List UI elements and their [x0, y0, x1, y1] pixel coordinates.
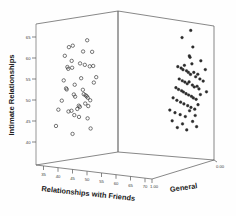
series-open-circles	[54, 39, 98, 136]
plot-canvas: 65 60 55 50 45 40 Intimate Relationships…	[0, 0, 236, 216]
data-point	[196, 85, 199, 88]
x-tick-label: 40	[56, 174, 61, 179]
data-point	[71, 132, 74, 135]
data-point	[89, 127, 92, 130]
y-axis-tick-labels: 65 60 55 50 45 40	[26, 35, 31, 145]
data-point	[192, 46, 195, 49]
data-point	[60, 99, 63, 102]
data-point	[186, 104, 189, 107]
y-tick-label: 45	[26, 119, 31, 124]
data-point	[179, 113, 182, 116]
x-tick-label: 45	[70, 176, 75, 181]
y-tick-label: 40	[26, 140, 31, 145]
x-tick-label: 50	[85, 177, 90, 182]
y-tick-label: 55	[26, 77, 31, 82]
data-point	[190, 106, 193, 109]
data-point	[57, 108, 60, 111]
data-point	[179, 101, 182, 104]
data-point	[88, 99, 91, 102]
data-point	[172, 97, 175, 100]
data-point	[168, 109, 171, 112]
frame-right-wall	[118, 11, 214, 160]
data-point	[77, 115, 80, 118]
data-point	[86, 117, 89, 120]
y-tick-label: 50	[26, 98, 31, 103]
data-point	[194, 114, 197, 117]
data-point	[71, 44, 74, 47]
data-point	[187, 71, 190, 74]
data-point	[67, 45, 70, 48]
data-point	[193, 86, 196, 89]
z-axis-ticks	[152, 160, 217, 183]
data-point	[192, 71, 195, 74]
data-point	[184, 81, 187, 84]
data-point	[175, 86, 178, 89]
data-point	[73, 83, 76, 86]
x-tick-label: 60	[114, 181, 119, 186]
data-point	[188, 81, 191, 84]
y-axis-ticks	[32, 37, 36, 142]
y-tick-label: 65	[26, 35, 31, 40]
data-point	[189, 56, 192, 59]
z-tick-label-far: 0.00	[216, 164, 225, 169]
scatterplot-3d: 65 60 55 50 45 40 Intimate Relationships…	[0, 0, 236, 216]
data-point	[204, 68, 207, 71]
data-point	[183, 103, 186, 106]
z-axis-title: General	[169, 181, 198, 194]
x-tick-label: 35	[41, 172, 46, 177]
data-point	[189, 73, 192, 76]
data-point	[181, 123, 184, 126]
data-point	[176, 65, 179, 68]
frame-left-wall	[36, 11, 118, 165]
data-point	[81, 50, 84, 53]
z-tick	[214, 160, 217, 162]
data-point	[191, 62, 194, 65]
data-point	[84, 102, 87, 105]
series-filled-circles	[168, 29, 207, 131]
data-point	[192, 97, 195, 100]
data-point	[171, 119, 174, 122]
data-point	[182, 68, 185, 71]
x-tick-label: 55	[99, 179, 104, 184]
data-point	[193, 108, 196, 111]
data-point	[199, 93, 202, 96]
data-point	[78, 62, 81, 65]
data-point	[62, 79, 65, 82]
data-point	[88, 65, 91, 68]
data-point	[54, 124, 57, 127]
data-point	[198, 88, 201, 91]
data-point	[191, 120, 194, 123]
data-point	[196, 73, 199, 76]
y-axis-title: Intimate Relationships	[7, 54, 16, 135]
data-point	[188, 109, 191, 112]
data-point	[174, 111, 177, 114]
z-tick-label-near: 1.00	[150, 184, 159, 189]
data-point	[195, 125, 198, 128]
y-tick-label: 60	[26, 56, 31, 61]
data-point	[181, 79, 184, 82]
data-point	[73, 113, 76, 116]
data-point	[87, 104, 90, 107]
data-point	[63, 54, 66, 57]
data-point	[95, 75, 98, 78]
data-point	[65, 88, 68, 91]
data-point	[195, 98, 198, 101]
x-tick-label: 65	[128, 183, 133, 188]
data-point	[182, 91, 185, 94]
data-point	[177, 88, 180, 91]
frame-floor-front	[36, 160, 214, 179]
data-point	[185, 129, 188, 132]
data-point	[92, 81, 95, 84]
data-point	[85, 39, 88, 42]
data-point	[91, 64, 94, 67]
data-point	[83, 63, 86, 66]
data-point	[178, 78, 181, 81]
data-point	[79, 77, 82, 80]
data-point	[181, 36, 184, 39]
data-point	[70, 66, 73, 69]
data-point	[176, 99, 179, 102]
data-point	[199, 59, 202, 62]
data-point	[205, 90, 208, 93]
data-point	[189, 29, 192, 32]
data-point	[187, 94, 190, 97]
